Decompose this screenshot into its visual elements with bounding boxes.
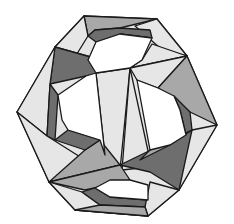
figure-canvas: Woven polyhedron (triangular strip const… (0, 0, 234, 224)
polyhedron-illustration (0, 0, 234, 224)
